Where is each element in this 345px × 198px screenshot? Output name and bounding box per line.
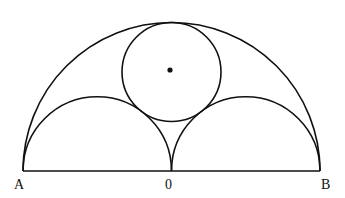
label-b: B [321, 177, 330, 192]
arbelos-diagram: A 0 B [0, 0, 345, 198]
large-semicircle [23, 22, 320, 171]
label-o: 0 [165, 177, 172, 192]
center-dot [167, 67, 172, 72]
label-a: A [14, 177, 25, 192]
right-semicircle [172, 97, 321, 171]
left-semicircle [23, 97, 172, 171]
